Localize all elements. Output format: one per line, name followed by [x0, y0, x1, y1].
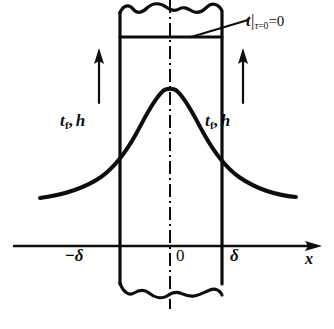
isotherm-evaluation-bar: | [251, 11, 254, 30]
x-tick-label-origin: 0 [176, 247, 185, 264]
left-fluid-condition-label: tf,h [60, 112, 85, 131]
isotherm-temperature-symbol: t [246, 12, 250, 29]
left-flux-coefficient-symbol: h [76, 111, 85, 130]
right-flux-coefficient-symbol: h [221, 111, 230, 130]
isotherm-condition-subscript: τ=0 [255, 21, 269, 31]
x-tick-label-negative-delta: −δ [65, 247, 83, 264]
heat-conduction-slab-diagram [0, 0, 334, 329]
x-tick-label-positive-delta: δ [230, 247, 239, 264]
figure-root: tf,h tf,h t|τ=0=0 −δ 0 δ x [0, 0, 334, 329]
x-axis-label: x [305, 251, 313, 267]
right-flux-comma: , [214, 111, 218, 130]
temperature-profile-curve [40, 89, 296, 198]
isotherm-value-equals-zero: =0 [268, 13, 284, 29]
right-fluid-condition-label: tf,h [205, 112, 230, 131]
left-flux-comma: , [69, 111, 73, 130]
negative-sign: − [65, 246, 75, 265]
negative-delta-symbol: δ [75, 246, 84, 265]
initial-condition-label: t|τ=0=0 [246, 12, 284, 31]
isotherm-label-leader-line [191, 20, 248, 37]
isotherm-condition-equals-zero: =0 [258, 21, 268, 31]
